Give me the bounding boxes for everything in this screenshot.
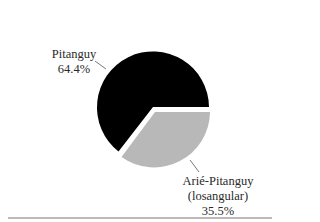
leader-line-arie xyxy=(190,160,199,172)
label-pitanguy-pct: 64.4% xyxy=(44,62,104,77)
label-pitanguy: Pitanguy 64.4% xyxy=(44,47,104,77)
label-pitanguy-name: Pitanguy xyxy=(44,47,104,62)
label-arie-name: Arié-Pitanguy xyxy=(168,174,268,189)
label-arie: Arié-Pitanguy (losangular) 35.5% xyxy=(168,174,268,219)
label-arie-sub: (losangular) xyxy=(168,189,268,204)
label-arie-pct: 35.5% xyxy=(168,204,268,219)
